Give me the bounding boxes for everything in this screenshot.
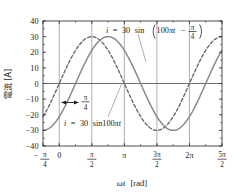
svg-text:5π: 5π (218, 151, 226, 159)
svg-text:2: 2 (220, 161, 224, 169)
x-axis-title-omega: ωt (117, 178, 126, 188)
y-axis-title: 電流 [A] (3, 69, 13, 99)
y-tick-label: 10 (30, 64, 38, 73)
lower-label-leader-line (108, 83, 122, 117)
svg-text:100πt: 100πt (157, 26, 176, 35)
upper-label-leader-line (138, 34, 146, 62)
svg-text:π: π (43, 151, 47, 159)
y-axis-tick-labels: 403020100−10−20−30−40 (26, 17, 39, 151)
svg-text:i = 30: i = 30 sin100πt (64, 119, 122, 128)
y-tick-label: 40 (30, 17, 38, 26)
svg-text:2: 2 (90, 161, 94, 169)
svg-text:4: 4 (43, 161, 47, 169)
phase-shift-numerator: π (84, 94, 88, 102)
x-axis-tick-labels: −π40π2π3π22π5π2 (34, 151, 227, 170)
x-tick-label: π2 (87, 151, 96, 169)
svg-text:0: 0 (57, 151, 61, 160)
upper-equation-label: i = 30 sin 100πt − π 4 (106, 24, 201, 42)
svg-text:−: − (34, 151, 39, 160)
x-tick-label: 2π (185, 151, 194, 160)
x-tick-label: 3π2 (152, 151, 161, 169)
chart-figure: 403020100−10−20−30−40 −π40π2π3π22π5π2 電流… (0, 0, 237, 196)
svg-text:4: 4 (191, 33, 195, 41)
y-tick-label: 20 (30, 48, 38, 57)
y-tick-label: 0 (34, 80, 38, 89)
svg-text:i = 30: i = 30 sin (106, 26, 144, 35)
x-tick-label: −π4 (34, 151, 50, 170)
svg-text:3π: 3π (153, 151, 161, 159)
y-tick-label: −20 (26, 111, 39, 120)
x-tick-label: 0 (57, 151, 61, 160)
svg-text:ωt [rad]: ωt [rad] (117, 178, 147, 188)
y-tick-label: −10 (26, 95, 39, 104)
y-tick-label: 30 (30, 33, 38, 42)
y-tick-label: −30 (26, 126, 39, 135)
x-tick-label: 5π2 (218, 151, 227, 169)
svg-text:2π: 2π (185, 151, 194, 160)
lower-equation-label: i = 30 sin100πt (64, 119, 122, 128)
svg-text:2: 2 (155, 161, 159, 169)
phase-shift-denominator: 4 (84, 104, 88, 112)
svg-text:π: π (122, 151, 127, 160)
svg-text:−: − (181, 26, 186, 35)
svg-text:π: π (90, 151, 94, 159)
svg-text:π: π (191, 24, 195, 32)
current-waveform-chart: 403020100−10−20−30−40 −π40π2π3π22π5π2 電流… (0, 0, 237, 196)
x-tick-label: π (122, 151, 127, 160)
x-axis-title: ωt [rad] (117, 178, 147, 188)
phase-shift-annotation: π 4 (62, 94, 90, 113)
x-axis-title-unit: [rad] (130, 178, 147, 188)
